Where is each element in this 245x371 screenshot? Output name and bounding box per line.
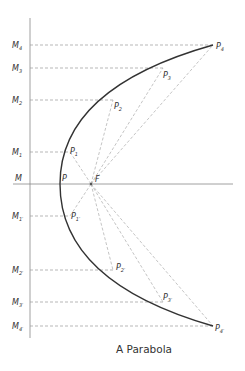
origin-label: M <box>15 174 22 183</box>
svg-text:P4′: P4′ <box>215 324 225 334</box>
svg-text:P1: P1 <box>70 147 78 157</box>
svg-text:M2′: M2′ <box>12 266 24 276</box>
perpendicular-lines <box>30 45 213 326</box>
svg-text:M4′: M4′ <box>12 322 24 332</box>
svg-text:M1′: M1′ <box>12 212 24 222</box>
svg-text:P3′: P3′ <box>163 293 173 303</box>
caption: A Parabola <box>116 343 172 355</box>
svg-text:P2: P2 <box>114 102 122 112</box>
svg-text:M4: M4 <box>12 41 22 51</box>
m-labels: M4 M3 M2 M1 M M1′ M2′ M3′ M4′ <box>12 41 24 332</box>
parabola-curve <box>60 45 213 326</box>
svg-text:P1′: P1′ <box>71 212 81 222</box>
focus-point <box>90 183 93 186</box>
svg-text:M1: M1 <box>12 148 22 158</box>
svg-text:P2′: P2′ <box>116 263 126 273</box>
svg-text:P3: P3 <box>163 71 171 81</box>
focus-label: F <box>95 175 100 184</box>
parabola-diagram: M4 M3 M2 M1 M M1′ M2′ M3′ M4′ P4 P3 P2 P… <box>0 0 245 371</box>
svg-text:M3: M3 <box>12 64 22 74</box>
svg-text:M3′: M3′ <box>12 298 24 308</box>
focal-radii <box>70 45 213 326</box>
p-labels: P4 P3 P2 P1 P F P1′ P2′ P3′ P4′ <box>62 42 225 334</box>
svg-text:P4: P4 <box>216 42 224 52</box>
svg-text:M2: M2 <box>12 96 22 106</box>
vertex-label: P <box>62 174 67 183</box>
